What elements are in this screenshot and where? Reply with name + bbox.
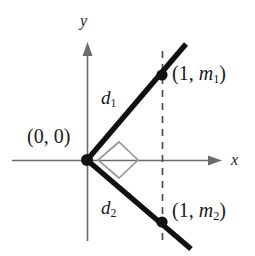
point-lower-label: (1, m2) [172, 200, 226, 220]
x-axis [12, 156, 222, 166]
x-axis-label: x [231, 152, 238, 168]
point-lower-label-variable: m [199, 199, 213, 221]
distance-d1-subscript: 1 [111, 97, 117, 110]
point-lower [156, 216, 167, 227]
distance-d2-text: d [101, 197, 111, 218]
point-upper [156, 69, 167, 80]
point-lower-label-close: ) [219, 199, 226, 221]
y-axis-label: y [80, 13, 87, 29]
origin-label: (0, 0) [27, 126, 70, 146]
origin-point [81, 154, 93, 166]
y-axis [83, 42, 93, 241]
distance-d1-text: d [101, 87, 111, 108]
point-lower-label-open: (1, [172, 199, 199, 221]
point-upper-label-variable: m [199, 62, 213, 84]
distance-d2-subscript: 2 [111, 207, 117, 220]
distance-d2-label: d2 [101, 198, 116, 217]
distance-d1-label: d1 [101, 88, 116, 107]
y-axis-arrowhead [83, 42, 93, 56]
geometry-figure: y x (0, 0) d1 d2 (1, m1) (1, m2) [0, 0, 255, 256]
x-axis-arrowhead [208, 156, 222, 166]
point-upper-label-open: (1, [172, 62, 199, 84]
point-upper-label-close: ) [219, 62, 226, 84]
point-upper-label: (1, m1) [172, 63, 226, 83]
